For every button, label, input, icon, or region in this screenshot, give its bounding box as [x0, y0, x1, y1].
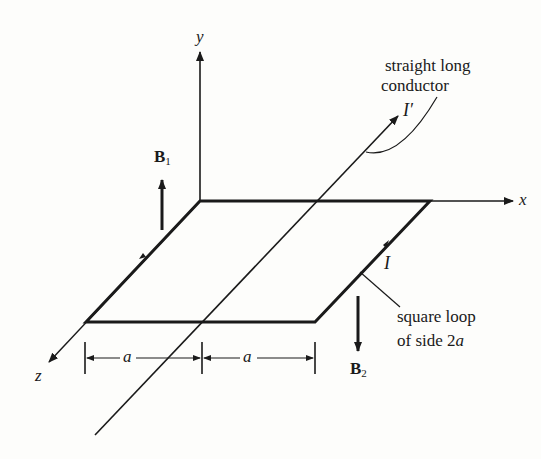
dimension-label-left: a	[123, 348, 132, 365]
loop-leader-line	[360, 272, 400, 307]
loop-label: square loop of side 2a	[397, 305, 476, 353]
diagram-canvas: y x z straight long conductor I′ I squar…	[0, 0, 541, 459]
conductor-current-label: I′	[403, 101, 413, 119]
conductor-label-line2: conductor	[381, 76, 470, 96]
loop-label-line2: of side 2a	[397, 329, 476, 353]
dimension-lines	[85, 342, 315, 374]
dimension-label-right: a	[243, 348, 252, 365]
b1-label: B1	[154, 148, 171, 167]
conductor-label-line1: straight long	[385, 56, 470, 76]
x-axis-label: x	[519, 191, 527, 208]
loop-current-label: I	[384, 254, 390, 272]
conductor-label: straight long conductor	[385, 56, 470, 96]
y-axis-label: y	[196, 28, 204, 45]
b2-label: B2	[350, 360, 367, 379]
square-loop	[86, 201, 430, 322]
z-axis-label: z	[35, 367, 42, 384]
loop-label-line1: square loop	[397, 305, 476, 329]
